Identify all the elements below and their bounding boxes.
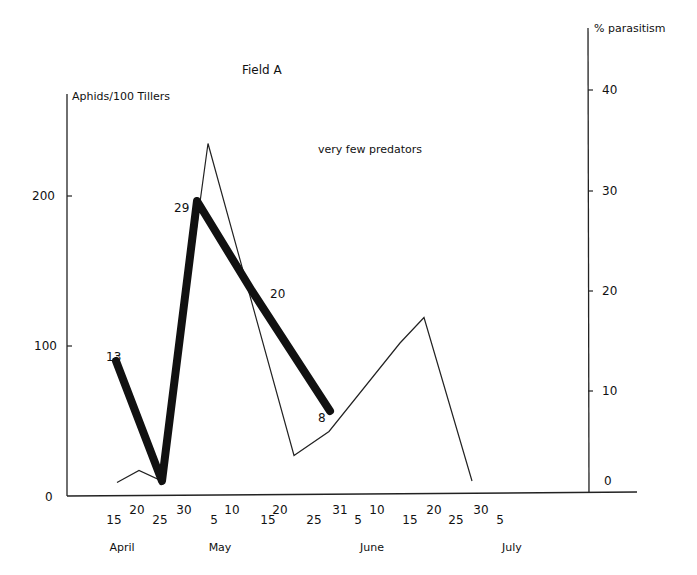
x-tick-label: 15 (402, 513, 417, 527)
x-tick-label: 10 (369, 503, 384, 517)
left-axis-title: Aphids/100 Tillers (72, 90, 170, 104)
left-tick-label-200: 200 (32, 189, 55, 203)
month-label: July (502, 541, 522, 555)
right-y-axis (588, 28, 589, 492)
x-tick-label: 15 (106, 513, 121, 527)
right-tick-label-10: 10 (602, 384, 617, 398)
x-axis (67, 492, 637, 496)
x-tick-label: 25 (152, 513, 167, 527)
point-label-20: 20 (270, 287, 285, 301)
right-tick-label-20: 20 (602, 284, 617, 298)
x-tick-label: 30 (473, 503, 488, 517)
right-tick-label-30: 30 (602, 184, 617, 198)
point-label-8: 8 (318, 411, 326, 425)
annotation-few-predators: very few predators (318, 143, 422, 157)
point-label-13: 13 (106, 350, 121, 364)
right-tick-label-40: 40 (602, 83, 617, 97)
right-tick-label-0: 0 (604, 474, 612, 488)
month-label: June (360, 541, 384, 555)
x-tick-label: 25 (448, 513, 463, 527)
x-tick-label: 10 (224, 503, 239, 517)
right-axis-title: % parasitism (594, 22, 666, 36)
point-label-29: 29 (174, 201, 189, 215)
x-tick-label: 25 (306, 513, 321, 527)
month-label: April (109, 541, 134, 555)
x-tick-label: 20 (426, 503, 441, 517)
x-tick-label: 5 (496, 513, 504, 527)
x-tick-label: 30 (176, 503, 191, 517)
left-tick-label-100: 100 (34, 339, 57, 353)
month-label: May (209, 541, 232, 555)
x-tick-label: 20 (272, 503, 287, 517)
parasitism-series-line (116, 201, 330, 481)
x-tick-label: 31 (332, 503, 347, 517)
chart-canvas (0, 0, 697, 575)
x-tick-label: 5 (210, 513, 218, 527)
left-tick-label-0: 0 (45, 490, 53, 504)
x-tick-label: 20 (129, 503, 144, 517)
x-tick-label: 5 (354, 513, 362, 527)
chart-title: Field A (242, 63, 282, 77)
